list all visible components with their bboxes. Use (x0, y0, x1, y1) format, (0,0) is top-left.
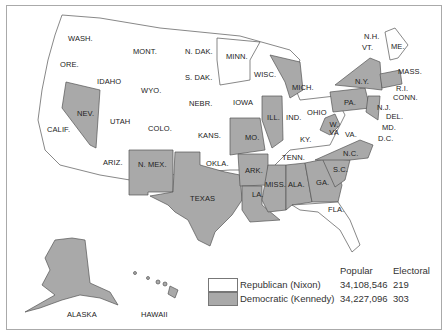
label-la: LA. (252, 190, 264, 199)
label-miss: MISS. (265, 180, 286, 189)
state-new-mexico (129, 150, 173, 195)
label-va: VA. (345, 130, 357, 139)
label-nj: N.J. (377, 103, 391, 112)
label-ri: R.I. (396, 84, 408, 93)
label-wisc: WISC. (254, 70, 276, 79)
legend-header-popular: Popular (340, 265, 373, 276)
label-ga: GA. (316, 178, 329, 187)
label-nebr: NEBR. (189, 99, 212, 108)
label-ark: ARK. (245, 166, 263, 175)
label-iowa: IOWA (233, 98, 253, 107)
label-hawaii: HAWAII (141, 310, 168, 319)
label-ala: ALA. (288, 180, 305, 189)
label-wash: WASH. (68, 34, 93, 43)
label-md: MD. (382, 123, 396, 132)
legend-label-democratic: Democratic (Kennedy) (240, 293, 335, 304)
legend-label-republican: Republican (Nixon) (240, 279, 321, 290)
label-kans: KANS. (198, 131, 221, 140)
label-ariz: ARIZ. (103, 158, 123, 167)
label-utah: UTAH (110, 117, 130, 126)
label-del: DEL. (386, 112, 403, 121)
label-ill: ILL. (267, 113, 280, 122)
label-s-dak: S. DAK. (185, 73, 212, 82)
legend-header-electoral: Electoral (393, 265, 430, 276)
label-calif: CALIF. (47, 125, 70, 134)
legend-swatch-republican (208, 278, 238, 292)
label-me: ME. (391, 42, 405, 51)
label-ind: IND. (286, 113, 301, 122)
label-n-mex: N. MEX. (138, 160, 167, 169)
label-dc: D.C. (378, 134, 393, 143)
label-nc: N.C. (343, 149, 358, 158)
label-mont: MONT. (133, 47, 157, 56)
label-ny: N.Y. (355, 77, 369, 86)
label-pa: PA. (344, 98, 356, 107)
label-nev: NEV. (77, 109, 94, 118)
label-tenn: TENN. (282, 153, 305, 162)
label-w-va: W. VA (327, 121, 341, 137)
label-ohio: OHIO (307, 108, 327, 117)
label-nh: N.H. (364, 32, 379, 41)
label-conn: CONN. (393, 93, 418, 102)
label-vt: VT. (362, 43, 373, 52)
label-mo: MO. (245, 133, 259, 142)
label-okla: OKLA. (206, 159, 229, 168)
label-mass: MASS. (398, 67, 422, 76)
label-idaho: IDAHO (97, 77, 121, 86)
legend-popular-democratic: 34,227,096 (340, 293, 388, 304)
label-n-dak: N. DAK. (185, 47, 213, 56)
label-mich: MICH. (292, 83, 314, 92)
label-sc: S.C. (333, 165, 348, 174)
state-florida (292, 202, 360, 252)
state-hawaii (134, 272, 179, 299)
label-minn: MINN. (226, 52, 248, 61)
label-fla: FLA. (328, 205, 344, 214)
state-alaska (25, 238, 118, 312)
legend-electoral-republican: 219 (393, 279, 409, 290)
label-texas: TEXAS (190, 194, 215, 203)
label-wyo: WYO. (141, 86, 161, 95)
label-alaska: ALASKA (67, 310, 97, 319)
legend-swatch-democratic (208, 292, 238, 306)
legend-popular-republican: 34,108,546 (340, 279, 388, 290)
legend-electoral-democratic: 303 (393, 293, 409, 304)
label-ky: KY. (300, 135, 311, 144)
label-colo: COLO. (148, 124, 172, 133)
label-ore: ORE. (60, 60, 79, 69)
